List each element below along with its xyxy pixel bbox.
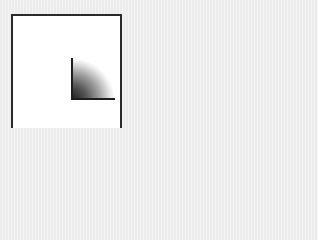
radial-gradient-icon bbox=[71, 58, 115, 100]
icon-frame bbox=[11, 14, 122, 128]
vertical-axis-line bbox=[71, 58, 73, 100]
horizontal-axis-line bbox=[71, 98, 115, 100]
quarter-circle-gradient bbox=[71, 58, 115, 100]
